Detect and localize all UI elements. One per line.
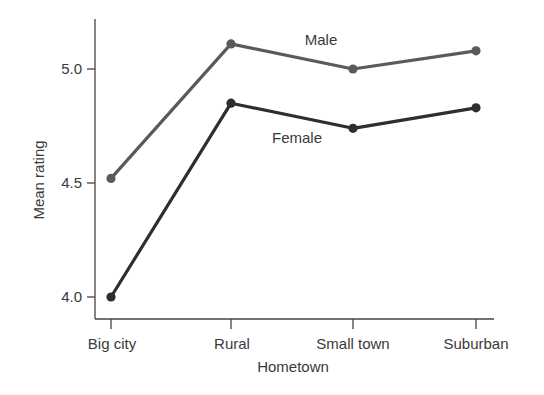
x-tick-label: Big city bbox=[88, 335, 137, 352]
data-point bbox=[348, 64, 357, 73]
y-tick-label: 4.5 bbox=[61, 174, 82, 191]
y-axis-title: Mean rating bbox=[30, 140, 47, 219]
data-point bbox=[106, 292, 115, 301]
x-axis-title: Hometown bbox=[257, 358, 329, 375]
data-point bbox=[471, 46, 480, 55]
x-tick-label: Suburban bbox=[443, 335, 508, 352]
x-tick-label: Rural bbox=[214, 335, 250, 352]
series-line-male bbox=[111, 44, 476, 179]
data-point bbox=[471, 103, 480, 112]
y-tick-label: 5.0 bbox=[61, 60, 82, 77]
data-point bbox=[348, 124, 357, 133]
series-markers-male bbox=[106, 39, 480, 183]
line-chart: 5.0 4.5 4.0 Big city Rural Small town Su… bbox=[0, 0, 544, 395]
x-ticks: Big city Rural Small town Suburban bbox=[88, 319, 509, 352]
series-label-female: Female bbox=[272, 129, 322, 146]
y-ticks: 5.0 4.5 4.0 bbox=[61, 60, 95, 305]
y-tick-label: 4.0 bbox=[61, 288, 82, 305]
data-point bbox=[226, 99, 235, 108]
series-label-male: Male bbox=[305, 31, 338, 48]
data-point bbox=[106, 174, 115, 183]
data-point bbox=[226, 39, 235, 48]
x-tick-label: Small town bbox=[316, 335, 389, 352]
